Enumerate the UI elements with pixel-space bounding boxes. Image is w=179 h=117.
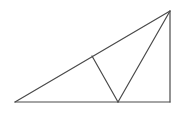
geometry-diagram [0,0,179,117]
apex-to-base-segment [118,11,170,102]
perpendicular-segment [92,56,118,102]
